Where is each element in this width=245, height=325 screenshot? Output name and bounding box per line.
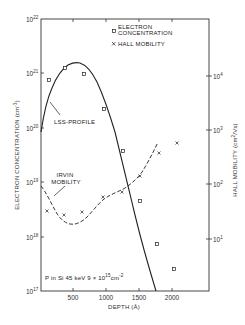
y-left-tick-labels: 1022 1021 1020 1019 1018 1017: [26, 15, 39, 295]
data-point-square: [83, 73, 86, 76]
x-tick-label: 1500: [132, 294, 147, 301]
svg-text:1018: 1018: [26, 233, 39, 241]
svg-text:101: 101: [213, 235, 223, 243]
x-ticks: [73, 288, 172, 291]
legend-label-concentration-2: CONCENTRATION: [118, 30, 173, 36]
data-point-square: [103, 108, 106, 111]
plot-frame: [41, 19, 209, 291]
irvin-label-line1: IRVIN: [57, 172, 74, 178]
svg-text:102: 102: [213, 180, 223, 188]
data-point-x: [121, 191, 124, 194]
legend-label-mobility: HALL MOBILITY: [118, 41, 165, 47]
y-right-axis-title: HALL MOBILITY (cm2/Vs): [231, 123, 239, 197]
x-tick-label: 1000: [99, 294, 114, 301]
svg-text:1017: 1017: [26, 287, 39, 295]
chart: 500 1000 1500 2000 DEPTH (Å) 1022 1021 1…: [0, 0, 245, 325]
data-point-x: [63, 214, 66, 217]
lss-pointer: [50, 102, 60, 115]
irvin-pointer: [54, 186, 65, 196]
data-point-square: [173, 268, 176, 271]
svg-text:1020: 1020: [26, 124, 39, 132]
data-point-square: [122, 150, 125, 153]
x-tick-label: 500: [68, 294, 79, 301]
svg-text:104: 104: [213, 72, 223, 80]
concentration-markers: [48, 67, 176, 271]
svg-text:1022: 1022: [26, 15, 39, 23]
svg-text:103: 103: [213, 126, 223, 134]
data-point-square: [48, 79, 51, 82]
data-point-x: [81, 211, 84, 214]
x-axis-title: DEPTH (Å): [108, 304, 140, 310]
data-point-x: [158, 152, 161, 155]
y-left-axis-title: ELECTRON CONCENTRATION (cm-3): [13, 100, 21, 210]
svg-text:1019: 1019: [26, 178, 39, 186]
data-point-square: [156, 243, 159, 246]
y-right-tick-labels: 104 103 102 101: [213, 72, 223, 243]
legend: ELECTRON CONCENTRATION HALL MOBILITY: [112, 24, 173, 47]
irvin-label-line2: MOBILITY: [51, 179, 81, 185]
x-tick-labels: 500 1000 1500 2000: [68, 294, 180, 301]
x-tick-label: 2000: [165, 294, 180, 301]
condition-label: P in Si 45 keV 9 × 1015cm-2: [45, 273, 124, 281]
legend-square-marker: [113, 30, 116, 33]
lss-label: LSS-PROFILE: [54, 119, 95, 125]
legend-x-marker: [112, 42, 116, 46]
svg-text:1021: 1021: [26, 69, 39, 77]
data-point-square: [64, 67, 67, 70]
data-point-square: [139, 200, 142, 203]
data-point-x: [176, 142, 179, 145]
data-point-x: [102, 196, 105, 199]
data-point-x: [46, 210, 49, 213]
